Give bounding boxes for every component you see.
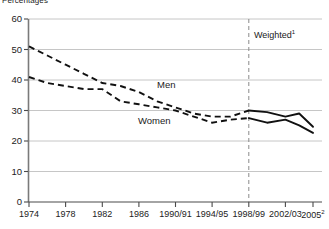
weighted-annotation-label: Weighted1 bbox=[254, 29, 295, 40]
chart-container: Percentages bbox=[0, 0, 329, 229]
ytick-label-0: 0 bbox=[0, 196, 22, 207]
ytick-label-30: 30 bbox=[0, 105, 22, 116]
series-line-men-dashed bbox=[29, 46, 249, 116]
xtick-label-2005: 20052 bbox=[301, 209, 324, 220]
series-line-women-solid bbox=[249, 118, 313, 133]
y-tick-marks bbox=[24, 19, 28, 202]
xtick-label-1982: 1982 bbox=[92, 209, 112, 219]
ytick-label-10: 10 bbox=[0, 166, 22, 177]
series-label-women: Women bbox=[138, 115, 171, 126]
weighted-annotation-superscript: 1 bbox=[292, 29, 295, 35]
xtick-label-1994-95: 1994/95 bbox=[196, 209, 229, 219]
xtick-label-1978: 1978 bbox=[56, 209, 76, 219]
weighted-annotation-text: Weighted bbox=[254, 30, 292, 40]
xtick-label-1986: 1986 bbox=[129, 209, 149, 219]
series-label-men: Men bbox=[157, 79, 175, 90]
xtick-label-2002-03: 2002/03 bbox=[269, 209, 302, 219]
xtick-label-1974: 1974 bbox=[19, 209, 39, 219]
ytick-label-20: 20 bbox=[0, 135, 22, 146]
x-tick-marks bbox=[29, 202, 313, 207]
ytick-label-60: 60 bbox=[0, 13, 22, 24]
xtick-label-1998-99: 1998/99 bbox=[233, 209, 266, 219]
xtick-label-2005-text: 2005 bbox=[301, 210, 321, 220]
xtick-2005-superscript: 2 bbox=[321, 209, 324, 215]
gridlines bbox=[28, 19, 322, 172]
xtick-label-1990-91: 1990/91 bbox=[159, 209, 192, 219]
ytick-label-40: 40 bbox=[0, 74, 22, 85]
series-line-men-solid bbox=[249, 111, 313, 127]
ytick-label-50: 50 bbox=[0, 44, 22, 55]
